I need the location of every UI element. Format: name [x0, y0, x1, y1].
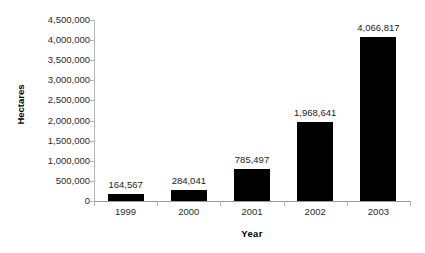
bar-2002: [297, 122, 333, 201]
y-axis-tick-mark: [90, 60, 94, 61]
bar-value-label-2000: 284,041: [144, 176, 234, 186]
y-axis-tick-label: 4,000,000: [28, 35, 90, 45]
plot-area: 164,567284,041785,4971,968,6414,066,817: [94, 20, 410, 201]
y-axis-tick-label: 1,500,000: [28, 136, 90, 146]
y-axis-tick-labels: 0500,0001,000,0001,500,0002,000,0002,500…: [28, 0, 90, 253]
bar-2001: [234, 169, 270, 201]
y-axis-tick-label: 2,500,000: [28, 95, 90, 105]
y-axis-tick-mark: [90, 161, 94, 162]
bar-chart: Hectares 0500,0001,000,0001,500,0002,000…: [0, 0, 425, 253]
y-axis-tick-mark: [90, 100, 94, 101]
y-axis-tick-label: 4,500,000: [28, 15, 90, 25]
bar-value-label-2003: 4,066,817: [333, 23, 423, 33]
bar-1999: [108, 194, 144, 201]
y-axis-line: [94, 20, 95, 202]
y-axis-tick-label: 2,000,000: [28, 116, 90, 126]
bar-2000: [171, 190, 207, 201]
x-axis-line: [94, 201, 410, 202]
y-axis-tick-mark: [90, 20, 94, 21]
y-axis-tick-label: 3,000,000: [28, 75, 90, 85]
y-axis-tick-label: 1,000,000: [28, 156, 90, 166]
y-axis-tick-mark: [90, 40, 94, 41]
bar-value-label-2002: 1,968,641: [270, 108, 360, 118]
bar-2003: [360, 37, 396, 201]
y-axis-tick-label: 3,500,000: [28, 55, 90, 65]
x-axis-title: Year: [94, 228, 410, 239]
x-axis-tick-label-2003: 2003: [338, 206, 418, 217]
y-axis-tick-mark: [90, 121, 94, 122]
bar-value-label-2001: 785,497: [207, 155, 297, 165]
y-axis-tick-label: 0: [28, 196, 90, 206]
y-axis-title-label: Hectares: [15, 75, 26, 135]
y-axis-tick-mark: [90, 80, 94, 81]
y-axis-tick-mark: [90, 141, 94, 142]
